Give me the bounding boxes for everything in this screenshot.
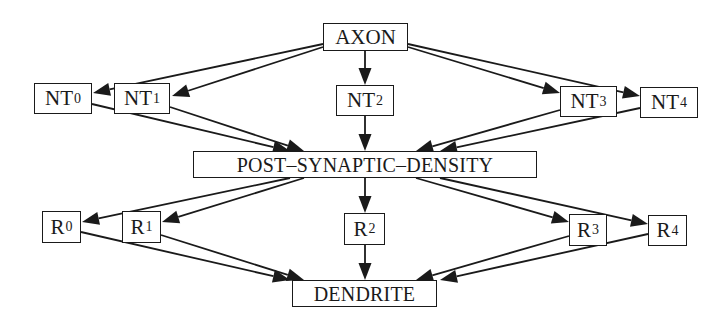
node-label: AXON xyxy=(335,27,396,48)
node-subscript: 2 xyxy=(369,222,376,236)
node-label: NT xyxy=(45,88,73,109)
node-label: R xyxy=(50,217,64,238)
arrowhead-icon xyxy=(359,134,372,151)
node-label: POST–SYNAPTIC–DENSITY xyxy=(237,155,493,175)
node-nt1: NT1 xyxy=(114,83,170,114)
node-subscript: 4 xyxy=(680,96,687,110)
arrowhead-icon xyxy=(551,211,569,223)
node-nt0: NT0 xyxy=(34,83,92,114)
node-label: R xyxy=(577,220,591,241)
node-label: R xyxy=(656,220,670,241)
node-label: NT xyxy=(651,92,679,113)
node-subscript: 1 xyxy=(146,220,153,234)
node-subscript: 4 xyxy=(672,224,679,238)
node-r1: R1 xyxy=(122,211,161,243)
arrowhead-icon xyxy=(359,68,372,85)
node-label: NT xyxy=(347,90,375,111)
node-subscript: 3 xyxy=(592,223,599,237)
node-r4: R4 xyxy=(648,215,687,246)
node-label: R xyxy=(353,219,367,240)
arrowhead-icon xyxy=(82,212,100,225)
node-subscript: 3 xyxy=(600,95,607,109)
node-label: R xyxy=(130,217,144,238)
node-r3: R3 xyxy=(569,214,607,246)
node-subscript: 2 xyxy=(376,94,383,108)
node-post-synaptic-density: POST–SYNAPTIC–DENSITY xyxy=(193,151,537,178)
node-r0: R0 xyxy=(42,211,81,243)
edge-axon-to-nt3 xyxy=(408,47,544,88)
edge-r0-to-dendrite xyxy=(81,232,273,276)
arrowhead-icon xyxy=(93,83,111,96)
node-dendrite: DENDRITE xyxy=(292,280,437,307)
node-nt4: NT4 xyxy=(640,87,698,118)
node-label: DENDRITE xyxy=(314,284,416,304)
node-nt3: NT3 xyxy=(560,86,617,117)
node-axon: AXON xyxy=(323,23,408,51)
node-subscript: 1 xyxy=(153,92,160,106)
node-r2: R2 xyxy=(344,213,385,245)
arrowhead-icon xyxy=(359,196,372,213)
node-subscript: 0 xyxy=(66,220,73,234)
arrowhead-icon xyxy=(359,263,372,280)
node-label: NT xyxy=(124,88,152,109)
arrowhead-icon xyxy=(622,86,640,99)
arrowhead-icon xyxy=(172,85,190,97)
edge-nt3-to-psd xyxy=(432,110,560,146)
node-subscript: 0 xyxy=(74,92,81,106)
arrowhead-icon xyxy=(162,211,180,223)
node-nt2: NT2 xyxy=(336,85,394,116)
arrowhead-icon xyxy=(630,214,648,227)
arrowhead-icon xyxy=(542,82,560,94)
node-label: NT xyxy=(571,91,599,112)
